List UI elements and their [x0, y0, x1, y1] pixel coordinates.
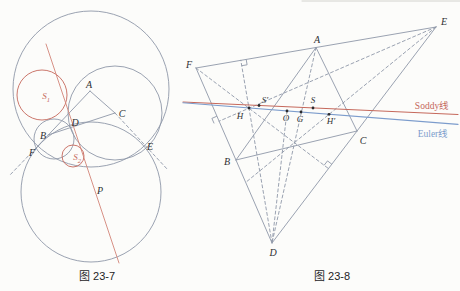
label-e: E — [440, 16, 447, 27]
label-g: G — [297, 114, 304, 124]
label-s: S — [311, 95, 316, 105]
label-d: D — [268, 247, 277, 258]
label-s1: S1 — [42, 91, 50, 103]
label-f: F — [28, 147, 36, 158]
side-a-c — [316, 48, 357, 132]
label-h-prime: H′ — [326, 116, 336, 126]
label-h: H — [236, 111, 244, 121]
label-s-prime: S′ — [262, 95, 270, 105]
point-o — [286, 110, 289, 113]
page: ABCDFEPS1S2图 23-7FAEBCDHS′OGSH′Soddy线Eul… — [0, 0, 460, 291]
label-s2: S2 — [73, 152, 82, 164]
label-d: D — [70, 117, 79, 128]
diagram-canvas: ABCDFEPS1S2图 23-7FAEBCDHS′OGSH′Soddy线Eul… — [0, 0, 460, 291]
label-a: A — [313, 34, 321, 45]
altitude-from-d — [241, 60, 272, 243]
label-p: P — [96, 185, 103, 196]
soddy-line-left — [46, 44, 119, 263]
right-angle-mark-ed — [324, 161, 332, 165]
caption-fig-23-7: 图 23-7 — [79, 270, 115, 282]
side-f-d — [196, 68, 272, 243]
side-b-c — [48, 113, 115, 135]
point-h — [248, 107, 251, 110]
side-a-c — [90, 91, 115, 113]
label-b: B — [40, 130, 46, 141]
right-angle-mark-fd — [212, 116, 217, 123]
figure-23-7: ABCDFEPS1S2图 23-7 — [9, 11, 169, 282]
label-a: A — [85, 79, 93, 90]
line-o-d — [272, 111, 287, 243]
euler-line-label: Euler线 — [418, 128, 449, 139]
ext-c-through-e — [115, 113, 168, 170]
label-c: C — [360, 135, 367, 146]
caption-fig-23-8: 图 23-8 — [314, 270, 350, 282]
line-e-hprime — [246, 27, 436, 182]
altitude-from-e — [219, 27, 436, 121]
outer-circle-bottom — [21, 122, 161, 262]
point-g — [300, 111, 303, 114]
label-o: O — [283, 113, 290, 123]
point-s-prime — [258, 104, 261, 107]
figure-23-8: FAEBCDHS′OGSH′Soddy线Euler线图 23-8 — [183, 1, 460, 282]
label-f: F — [185, 59, 193, 70]
label-e: E — [146, 141, 153, 152]
soddy-line-label: Soddy线 — [415, 100, 449, 111]
label-c: C — [119, 108, 126, 119]
label-b: B — [224, 156, 230, 167]
point-s — [312, 107, 315, 110]
